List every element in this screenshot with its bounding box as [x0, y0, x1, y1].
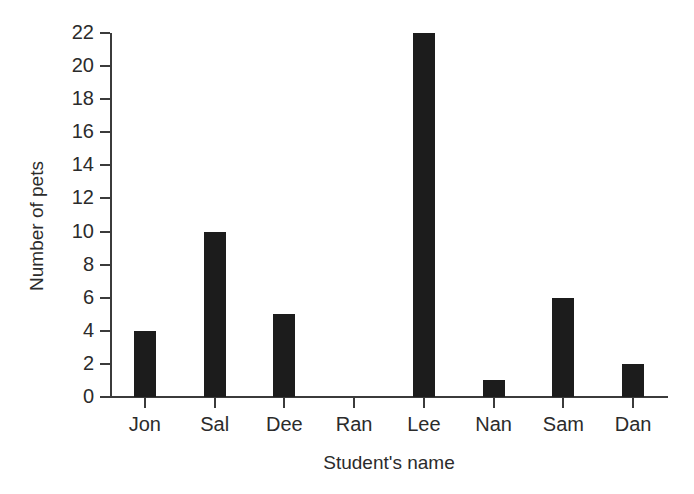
x-axis-tick	[283, 397, 285, 408]
y-axis-tick-label-wrap: 4	[46, 320, 94, 340]
bar	[483, 380, 505, 397]
y-axis-tick-label-wrap: 16	[46, 121, 94, 141]
y-axis-tick-label: 22	[48, 22, 94, 42]
x-axis-tick	[423, 397, 425, 408]
x-axis-line	[110, 396, 668, 398]
y-axis-tick	[100, 32, 110, 34]
y-axis-title: Number of pets	[26, 126, 48, 326]
x-axis-tick	[493, 397, 495, 408]
bar	[413, 33, 435, 397]
y-axis-tick-label-wrap: 8	[46, 254, 94, 274]
y-axis-tick-label: 20	[48, 55, 94, 75]
y-axis-tick-label: 4	[48, 320, 94, 340]
y-axis-tick	[100, 164, 110, 166]
y-axis-tick-label-wrap: 20	[46, 55, 94, 75]
y-axis-tick	[100, 65, 110, 67]
y-axis-line	[110, 33, 112, 397]
y-axis-tick-label-wrap: 18	[46, 88, 94, 108]
bar	[552, 298, 574, 397]
y-axis-tick	[100, 330, 110, 332]
bar-chart: Number of pets 0246810121416182022 JonSa…	[0, 0, 694, 494]
y-axis-tick	[100, 197, 110, 199]
y-axis-tick	[100, 231, 110, 233]
x-axis-tick	[214, 397, 216, 408]
bar	[204, 232, 226, 397]
x-axis-tick	[353, 397, 355, 408]
y-axis-tick-label: 10	[48, 221, 94, 241]
y-axis-tick-label-wrap: 2	[46, 353, 94, 373]
y-axis-tick-label: 6	[48, 287, 94, 307]
y-axis-tick-label-wrap: 10	[46, 221, 94, 241]
bar	[273, 314, 295, 397]
chart-page: Number of pets 0246810121416182022 JonSa…	[0, 0, 694, 494]
x-axis-tick	[144, 397, 146, 408]
y-axis-tick	[100, 396, 110, 398]
y-axis-tick-label: 16	[48, 121, 94, 141]
y-axis-tick-label: 0	[48, 386, 94, 406]
y-axis-tick-label: 18	[48, 88, 94, 108]
y-axis-tick-label-wrap: 12	[46, 187, 94, 207]
y-axis-tick	[100, 98, 110, 100]
y-axis-tick-label: 8	[48, 254, 94, 274]
y-axis-tick-label-wrap: 0	[46, 386, 94, 406]
y-axis-tick	[100, 363, 110, 365]
y-axis-tick	[100, 264, 110, 266]
y-axis-tick	[100, 131, 110, 133]
y-axis-tick-label: 14	[48, 154, 94, 174]
bar	[622, 364, 644, 397]
x-axis-tick-label: Dan	[588, 414, 678, 434]
y-axis-tick-label-wrap: 22	[46, 22, 94, 42]
y-axis-tick	[100, 297, 110, 299]
x-axis-title: Student's name	[110, 452, 668, 474]
y-axis-tick-label: 12	[48, 187, 94, 207]
y-axis-tick-label: 2	[48, 353, 94, 373]
y-axis-tick-label-wrap: 14	[46, 154, 94, 174]
y-axis-tick-label-wrap: 6	[46, 287, 94, 307]
x-axis-tick	[562, 397, 564, 408]
bar	[134, 331, 156, 397]
x-axis-tick	[632, 397, 634, 408]
